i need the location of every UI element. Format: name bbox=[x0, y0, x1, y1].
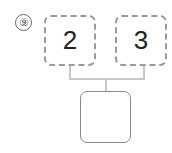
answer-box[interactable] bbox=[80, 91, 131, 143]
part-box-right: 3 bbox=[115, 15, 167, 66]
part-box-left: 2 bbox=[44, 15, 96, 66]
problem-number: ⑨ bbox=[15, 14, 32, 31]
connector-horizontal bbox=[69, 78, 145, 80]
connector-center-stem bbox=[105, 78, 107, 91]
